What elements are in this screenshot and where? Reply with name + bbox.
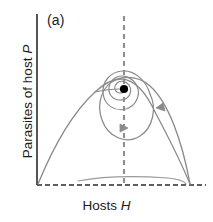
y-axis-label-text: Parasites of host	[20, 54, 35, 158]
trajectory-outer-arc	[38, 77, 190, 184]
x-axis-variable: H	[121, 198, 131, 213]
phase-plane-figure: (a) Hosts H Parasites of host P	[0, 0, 213, 222]
equilibrium-point-marker	[120, 85, 128, 93]
arrowhead-outer-icon	[156, 103, 165, 111]
trajectory-near-axis	[78, 177, 186, 184]
panel-label: (a)	[47, 12, 65, 28]
y-axis-variable: P	[20, 45, 35, 54]
x-axis-label-text: Hosts	[82, 198, 120, 213]
x-axis-label: Hosts H	[0, 198, 213, 213]
y-axis-label: Parasites of host P	[20, 7, 35, 197]
